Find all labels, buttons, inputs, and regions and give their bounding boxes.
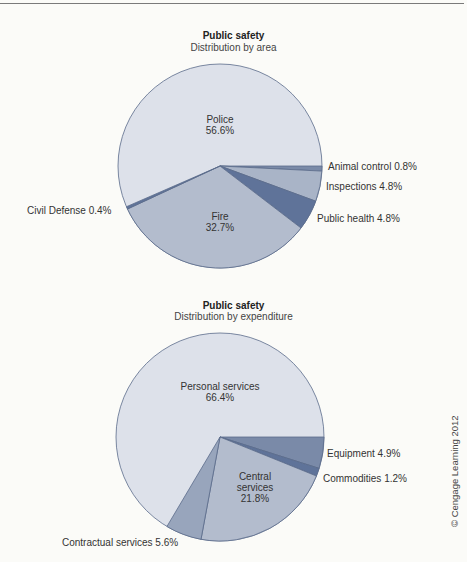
police-name: Police xyxy=(180,114,260,125)
inspections-label: Inspections 4.8% xyxy=(326,181,402,192)
fire-pct: 32.7% xyxy=(195,222,245,233)
copyright-credit: © Cengage Learning 2012 xyxy=(449,415,460,527)
police-pct: 56.6% xyxy=(180,125,260,136)
fire-name: Fire xyxy=(195,211,245,222)
pie2 xyxy=(116,333,324,541)
commodities-label: Commodities 1.2% xyxy=(323,473,407,484)
police-label: Police 56.6% xyxy=(180,114,260,136)
public-health-label: Public health 4.8% xyxy=(317,213,400,224)
central-pct: 21.8% xyxy=(225,493,285,504)
personal-name: Personal services xyxy=(170,381,270,392)
chart2-title: Public safety xyxy=(0,300,467,311)
civil-defense-label: Civil Defense 0.4% xyxy=(27,205,111,216)
personal-services-label: Personal services 66.4% xyxy=(170,381,270,403)
central-services-label: Central services 21.8% xyxy=(225,471,285,504)
animal-control-label: Animal control 0.8% xyxy=(328,161,417,172)
chart2-subtitle: Distribution by expenditure xyxy=(0,311,467,322)
equipment-label: Equipment 4.9% xyxy=(327,448,400,459)
central-name-2: services xyxy=(225,482,285,493)
personal-pct: 66.4% xyxy=(170,392,270,403)
central-name-1: Central xyxy=(225,471,285,482)
contractual-services-label: Contractual services 5.6% xyxy=(62,537,178,548)
pie1 xyxy=(118,64,322,268)
fire-label: Fire 32.7% xyxy=(195,211,245,233)
